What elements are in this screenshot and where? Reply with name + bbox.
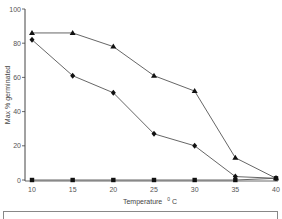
x-tick-label: 30 — [191, 186, 199, 193]
triangle-marker — [29, 30, 35, 35]
square-marker — [274, 176, 278, 180]
triangle-marker — [232, 155, 238, 160]
data-series — [29, 30, 279, 182]
square-marker — [111, 178, 115, 182]
x-tick-label: 10 — [28, 186, 36, 193]
y-tick-label: 20 — [13, 142, 21, 149]
germination-chart: 02040608010010152025303540 Max % germina… — [0, 0, 282, 219]
y-tick-label: 100 — [9, 6, 21, 13]
series-diamond — [30, 37, 279, 182]
square-marker — [152, 178, 156, 182]
y-axis-title: Max % germinated — [4, 66, 12, 124]
x-axis-title: Temperature 0 C — [123, 195, 177, 206]
square-marker — [233, 178, 237, 182]
square-marker — [192, 178, 196, 182]
y-tick-label: 60 — [13, 74, 21, 81]
axes: 02040608010010152025303540 — [9, 6, 280, 194]
x-tick-label: 20 — [109, 186, 117, 193]
x-tick-label: 40 — [272, 186, 280, 193]
series-line — [32, 33, 276, 178]
triangle-marker — [151, 73, 157, 78]
x-tick-label: 35 — [231, 186, 239, 193]
series-triangle — [29, 30, 279, 180]
x-tick-label: 25 — [150, 186, 158, 193]
y-tick-label: 40 — [13, 108, 21, 115]
square-marker — [70, 178, 74, 182]
triangle-marker — [70, 30, 76, 35]
y-tick-label: 80 — [13, 40, 21, 47]
y-tick-label: 0 — [17, 177, 21, 184]
diamond-marker — [192, 143, 197, 149]
legend-box — [3, 211, 278, 219]
square-marker — [30, 178, 34, 182]
x-tick-label: 15 — [69, 186, 77, 193]
series-line — [32, 40, 276, 179]
